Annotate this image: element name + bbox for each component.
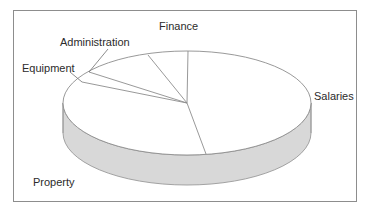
pie-slice-label-property: Property: [33, 176, 75, 188]
pie-slice-label-equipment: Equipment: [22, 62, 75, 74]
pie-chart-figure: Finance Administration Equipment Salarie…: [0, 0, 369, 215]
pie-slice-label-salaries: Salaries: [314, 90, 354, 102]
pie-slice-label-administration: Administration: [60, 36, 130, 48]
pie-slice-label-finance: Finance: [159, 20, 198, 32]
pie-top-surface: [63, 51, 311, 155]
